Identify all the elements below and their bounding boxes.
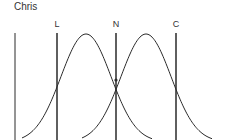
intersection-dot <box>114 78 117 81</box>
diagram-canvas <box>0 0 231 140</box>
right-bell-curve <box>82 34 212 139</box>
